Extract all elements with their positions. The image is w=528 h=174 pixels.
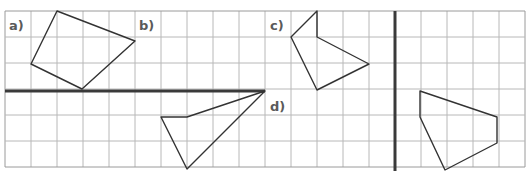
mirror-lines bbox=[5, 11, 395, 171]
grid-figure bbox=[0, 0, 528, 174]
label-d: d) bbox=[270, 100, 285, 114]
shape-c-pentagon bbox=[291, 11, 369, 90]
label-b: b) bbox=[139, 19, 154, 33]
symmetry-worksheet: a) b) c) d) bbox=[0, 0, 528, 174]
label-c: c) bbox=[270, 19, 284, 33]
shape-right-pentagon bbox=[420, 91, 497, 170]
label-a: a) bbox=[9, 19, 24, 33]
